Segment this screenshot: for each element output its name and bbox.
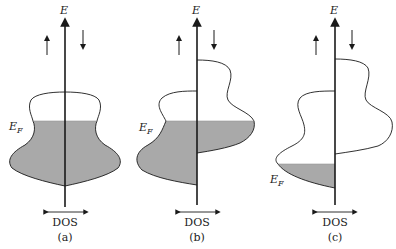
- panel-c: E EF DOS (c): [269, 4, 392, 244]
- fermi-label: EF: [269, 173, 284, 188]
- dos-label: DOS: [52, 216, 77, 229]
- panel-a: E EF DOS (a): [8, 4, 120, 244]
- energy-axis-label: E: [59, 4, 68, 17]
- dos-label: DOS: [184, 216, 209, 229]
- panel-b: E EF DOS (b): [137, 4, 254, 244]
- dos-label: DOS: [322, 216, 347, 229]
- panel-caption: (b): [189, 231, 205, 244]
- energy-axis-label: E: [329, 4, 338, 17]
- dos-diagram: E EF DOS (a) E EF DOS (b): [0, 0, 396, 249]
- panel-caption: (c): [328, 231, 343, 244]
- fermi-label: EF: [138, 121, 153, 136]
- energy-axis-label: E: [191, 4, 200, 17]
- panel-caption: (a): [57, 231, 72, 244]
- filled-states-spin-down: [197, 121, 254, 153]
- fermi-label: EF: [8, 120, 23, 135]
- dos-outline-spin-down: [335, 59, 392, 154]
- filled-states-spin-up: [278, 164, 335, 188]
